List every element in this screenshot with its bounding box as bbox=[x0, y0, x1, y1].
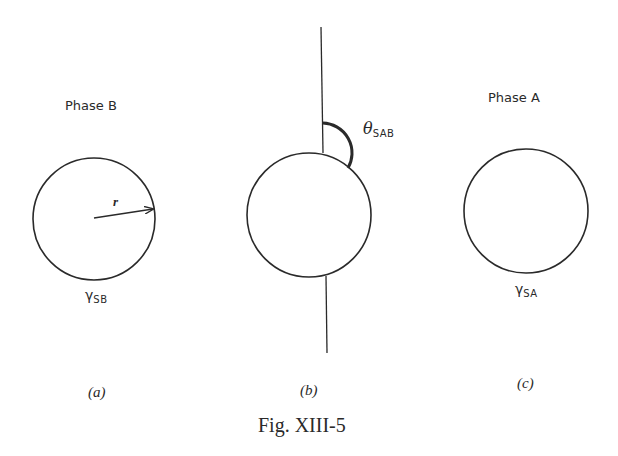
gamma-sb-label: γSB bbox=[85, 288, 108, 305]
panel-a-diagram bbox=[33, 158, 155, 280]
phase-a-circle bbox=[464, 149, 588, 273]
radius-label: r bbox=[113, 195, 118, 208]
panel-b-diagram bbox=[247, 27, 371, 353]
theta-sab-label: θSAB bbox=[363, 121, 394, 139]
phase-b-circle bbox=[33, 158, 155, 280]
figure-caption: Fig. XIII-5 bbox=[258, 415, 346, 435]
phase-a-title: Phase A bbox=[488, 91, 540, 104]
interface-circle bbox=[247, 153, 371, 277]
contact-angle-arc bbox=[323, 123, 352, 168]
interface-line-top bbox=[321, 27, 323, 153]
gamma-subscript: SB bbox=[93, 294, 107, 305]
radius-arrow bbox=[94, 209, 153, 218]
panel-b-label: (b) bbox=[300, 383, 318, 398]
theta-symbol: θ bbox=[363, 119, 373, 138]
theta-subscript: SAB bbox=[373, 128, 395, 139]
gamma-sa-label: γSA bbox=[515, 282, 538, 299]
gamma-subscript: SA bbox=[523, 288, 537, 299]
panel-c-label: (c) bbox=[517, 376, 534, 391]
panel-a-label: (a) bbox=[88, 385, 106, 400]
panel-c-diagram bbox=[464, 149, 588, 273]
phase-b-title: Phase B bbox=[65, 99, 117, 112]
interface-line-bottom bbox=[326, 276, 327, 353]
